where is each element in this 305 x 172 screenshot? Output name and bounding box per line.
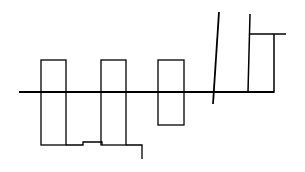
bottom-connector	[66, 142, 102, 145]
diagram-canvas	[0, 0, 305, 172]
right-structure	[248, 14, 274, 92]
box-2	[101, 60, 126, 145]
tail-connector	[126, 145, 142, 159]
slanted-line	[213, 12, 219, 104]
box-1	[41, 60, 66, 145]
